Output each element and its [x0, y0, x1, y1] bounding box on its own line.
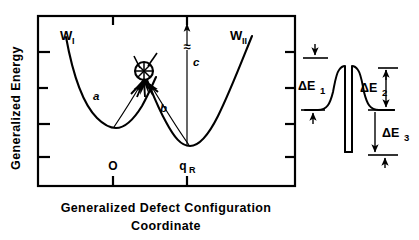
- break-symbol: ≈: [183, 39, 190, 54]
- path-label-b: b: [160, 102, 167, 114]
- x-axis-title-line2: Coordinate: [131, 219, 201, 233]
- barrier-curve-path: [305, 66, 394, 152]
- measure-dE1: ΔE 1: [298, 44, 326, 124]
- path-label-c: c: [193, 56, 200, 68]
- configuration-coordinate-figure: Generalized Energy: [0, 0, 419, 240]
- curve-w2: [147, 36, 252, 146]
- transition-path-b-arrow: [150, 84, 189, 145]
- xtick-label-qR-sub: R: [189, 165, 196, 175]
- measure-dE3-label-base: ΔE: [382, 126, 399, 140]
- transition-path-b: b: [150, 84, 189, 145]
- measure-dE2-label-sub: 2: [382, 87, 387, 98]
- curve-label-w2-sub: II: [242, 36, 247, 46]
- xtick-label-O-text: O: [108, 159, 117, 173]
- transition-path-c: ≈ c: [183, 24, 200, 146]
- xtick-label-qR-base: q: [179, 159, 186, 173]
- figure-canvas: Generalized Energy: [0, 0, 419, 240]
- plot-frame-rect: [38, 16, 295, 186]
- x-axis-ticks: [113, 176, 187, 186]
- xtick-label-qR: q R: [179, 159, 196, 175]
- measure-dE3-label-sub: 3: [404, 132, 409, 143]
- measure-dE3: ΔE 3: [375, 112, 409, 168]
- plot-frame: [38, 16, 295, 186]
- curve-label-w1-sub: I: [72, 36, 75, 46]
- x-axis-title: Generalized Defect Configuration Coordin…: [61, 201, 272, 233]
- xtick-label-O: O: [108, 159, 117, 173]
- measure-dE1-label-sub: 1: [320, 85, 326, 96]
- path-label-a: a: [93, 90, 100, 102]
- measure-dE2: ΔE 2: [360, 70, 387, 107]
- y-axis-ticks: [38, 52, 50, 157]
- x-axis-title-line1: Generalized Defect Configuration: [61, 201, 272, 215]
- top-axis-ticks: [113, 16, 187, 25]
- measure-dE1-label-base: ΔE: [298, 79, 315, 93]
- energy-barrier-profile: ΔE 1 ΔE 2 ΔE 3: [298, 44, 409, 168]
- transition-path-a-arrow: [114, 84, 141, 127]
- y-axis-title-text: Generalized Energy: [9, 46, 23, 170]
- right-axis-ticks: [285, 52, 295, 157]
- curve-w2-path: [147, 36, 252, 146]
- crossing-x-mark: [136, 63, 153, 80]
- curve-label-w2: W II: [230, 28, 247, 46]
- y-axis-title: Generalized Energy: [9, 46, 23, 170]
- measure-dE2-label-base: ΔE: [360, 81, 377, 95]
